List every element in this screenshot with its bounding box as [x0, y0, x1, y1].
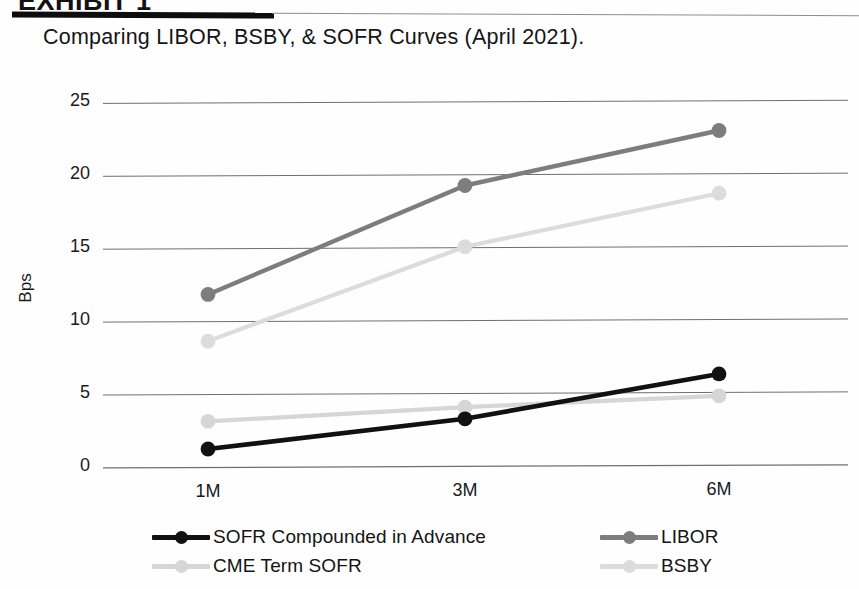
datapoint-3-2: [712, 186, 727, 201]
legend-marker-0: [175, 531, 188, 544]
series-3: [201, 186, 727, 349]
gridline-20: [103, 173, 848, 176]
datapoint-1-0: [201, 414, 216, 429]
datapoint-0-1: [458, 411, 473, 426]
x-tick-label-3M: 3M: [425, 480, 505, 501]
legend-item-3: BSBY: [600, 555, 712, 577]
datapoint-2-2: [712, 123, 727, 138]
legend-swatch-icon-2: [600, 529, 658, 545]
legend-item-2: LIBOR: [600, 526, 719, 548]
legend-item-1: CME Term SOFR: [152, 555, 362, 577]
datapoint-1-2: [712, 388, 727, 403]
chart-legend: SOFR Compounded in Advance CME Term SOFR…: [0, 524, 859, 589]
legend-label-3: BSBY: [661, 555, 712, 577]
gridline-10: [103, 319, 848, 322]
gridline-25: [103, 100, 848, 103]
gridline-0: [103, 465, 848, 468]
datapoint-2-0: [201, 287, 216, 302]
legend-item-0: SOFR Compounded in Advance: [152, 526, 486, 548]
legend-marker-1: [175, 560, 188, 573]
legend-swatch-icon-1: [152, 558, 210, 574]
gridline-5: [103, 392, 848, 395]
datapoint-2-1: [458, 178, 473, 193]
datapoint-0-2: [712, 367, 727, 382]
legend-label-1: CME Term SOFR: [213, 555, 362, 577]
y-tick-label-25: 25: [44, 90, 90, 111]
x-tick-label-6M: 6M: [679, 479, 759, 500]
chart-page: EXHIBIT 1 Comparing LIBOR, BSBY, & SOFR …: [0, 0, 859, 589]
legend-swatch-icon-3: [600, 558, 658, 574]
legend-marker-2: [623, 531, 636, 544]
datapoint-3-1: [458, 239, 473, 254]
y-tick-label-10: 10: [44, 309, 90, 330]
legend-label-0: SOFR Compounded in Advance: [213, 526, 486, 548]
legend-marker-3: [623, 560, 636, 573]
datapoint-3-0: [201, 334, 216, 349]
legend-label-2: LIBOR: [661, 526, 719, 548]
legend-swatch-icon-0: [152, 529, 210, 545]
series-2: [201, 123, 727, 302]
y-tick-label-0: 0: [44, 455, 90, 476]
y-tick-label-15: 15: [44, 236, 90, 257]
y-tick-label-5: 5: [44, 382, 90, 403]
x-tick-label-1M: 1M: [168, 481, 248, 502]
datapoint-0-0: [201, 442, 216, 457]
y-tick-label-20: 20: [44, 163, 90, 184]
